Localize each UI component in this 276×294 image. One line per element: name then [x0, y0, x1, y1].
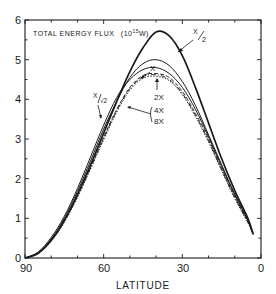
energy-flux-chart: 0 1 2 3 4 5 6 90 60 30 0 LATITUDE TOTAL … — [0, 0, 276, 294]
svg-text:2X: 2X — [154, 93, 164, 102]
curve-x2 — [25, 31, 253, 258]
x-tick-label: 0 — [258, 262, 264, 274]
y-tick-label: 5 — [15, 54, 21, 66]
annotation-4x-8x: 4X 8X — [127, 106, 164, 126]
annotation-x-over-sqrt2: X √2 — [93, 92, 108, 119]
svg-text:8X: 8X — [154, 117, 164, 126]
x-tick-label: 60 — [98, 262, 110, 274]
annotation-x-over-2: X 2 — [178, 28, 206, 52]
plot-frame — [25, 20, 261, 258]
svg-text:TOTAL ENERGY FLUX (1015W: TOTAL ENERGY FLUX (1015W) — [33, 28, 149, 38]
svg-text:X: X — [93, 92, 98, 99]
x-tick-label: 90 — [20, 262, 32, 274]
curve-8x — [25, 76, 253, 258]
axis-ticks — [25, 20, 261, 258]
svg-text:X: X — [193, 28, 198, 35]
x-tick-label: 30 — [177, 262, 189, 274]
y-tick-label: 1 — [15, 212, 21, 224]
annotation-2x: 2X — [154, 78, 164, 102]
y-tick-label: 6 — [15, 14, 21, 26]
y-tick-label: 3 — [15, 133, 21, 145]
y-tick-label: 2 — [15, 173, 21, 185]
y-axis-labels: 0 1 2 3 4 5 6 — [15, 14, 21, 264]
svg-text:√2: √2 — [100, 97, 108, 104]
svg-text:X: X — [150, 64, 156, 73]
curves — [25, 31, 253, 258]
x-axis-labels: 90 60 30 0 — [20, 262, 264, 274]
y-tick-label: 4 — [15, 93, 21, 105]
svg-text:4X: 4X — [154, 106, 164, 115]
x-axis-title: LATITUDE — [116, 280, 170, 291]
svg-text:2: 2 — [202, 36, 206, 43]
chart-title: TOTAL ENERGY FLUX (1015W) — [33, 28, 149, 38]
